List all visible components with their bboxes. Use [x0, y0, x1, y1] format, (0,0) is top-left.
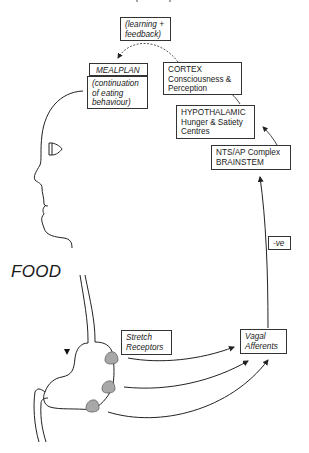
hypothalamic-box: HYPOTHALAMIC Hunger & Satiety Centres — [176, 105, 255, 139]
cropped-title-fragment — [136, 0, 171, 2]
receptor-icon — [86, 400, 99, 412]
feedback-box: (learning + feedback) — [120, 17, 171, 41]
hypothalamic-line1: HYPOTHALAMIC — [181, 108, 250, 118]
negative-label: -ve — [273, 239, 286, 249]
mealplan-line2: of eating — [92, 89, 143, 99]
vagal-to-brainstem-arrow — [260, 177, 268, 328]
cortex-line1: CORTEX — [168, 65, 237, 75]
esophagus — [80, 275, 95, 343]
pointer-triangle-icon — [64, 349, 70, 355]
hypothalamic-line3: Centres — [181, 127, 250, 137]
vagal-line1: Vagal — [245, 332, 282, 342]
head-profile — [34, 91, 83, 248]
receptor-icon — [102, 381, 115, 393]
cortex-box: CORTEX Consciousness & Perception — [163, 62, 242, 95]
hypothalamic-line2: Hunger & Satiety — [181, 118, 250, 128]
feedback-line2: feedback) — [125, 30, 166, 40]
mealplan-line1: (continuation — [92, 79, 143, 89]
duodenum — [34, 389, 48, 442]
cortex-line3: Perception — [168, 84, 237, 94]
food-label: FOOD — [11, 262, 61, 282]
brainstem-line2: BRAINSTEM — [216, 158, 286, 168]
eye-icon — [49, 143, 62, 155]
vagal-line2: Afferents — [245, 342, 282, 352]
receptor-arrow-2 — [124, 361, 248, 388]
brainstem-box: NTS/AP Complex BRAINSTEM — [211, 145, 291, 170]
mealplan-title-box: MEALPLAN — [89, 63, 148, 76]
mealplan-desc-box: (continuation of eating behaviour) — [87, 76, 148, 109]
stretch-line1: Stretch — [126, 333, 167, 343]
feedback-line1: (learning + — [125, 20, 166, 30]
mealplan-line3: behaviour) — [92, 98, 143, 108]
feedback-arrow — [118, 43, 178, 62]
vagal-afferents-box: Vagal Afferents — [240, 329, 287, 354]
receptor-icon — [105, 352, 118, 364]
diagram-canvas — [0, 0, 309, 453]
receptor-arrow-3 — [108, 360, 268, 418]
cortex-line2: Consciousness & — [168, 75, 237, 85]
stomach — [44, 342, 114, 410]
stretch-line2: Receptors — [126, 343, 167, 353]
brainstem-line1: NTS/AP Complex — [216, 148, 286, 158]
stretch-receptors-box: Stretch Receptors — [121, 330, 172, 355]
negative-feedback-box: -ve — [268, 236, 291, 250]
brainstem-to-hypothalamic-arrow — [263, 127, 277, 145]
mealplan-title: MEALPLAN — [96, 66, 143, 76]
